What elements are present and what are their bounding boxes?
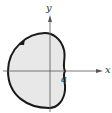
y-axis-label: y: [46, 3, 52, 13]
x-axis-arrow-icon: [96, 69, 103, 73]
point-a-label: a: [61, 74, 67, 84]
y-axis-arrow-icon: [48, 15, 52, 22]
diagram-canvas: [0, 0, 112, 113]
cardioid-diagram: y x a: [0, 0, 112, 113]
cardioid-region: [8, 33, 65, 108]
x-axis-label: x: [105, 65, 111, 75]
